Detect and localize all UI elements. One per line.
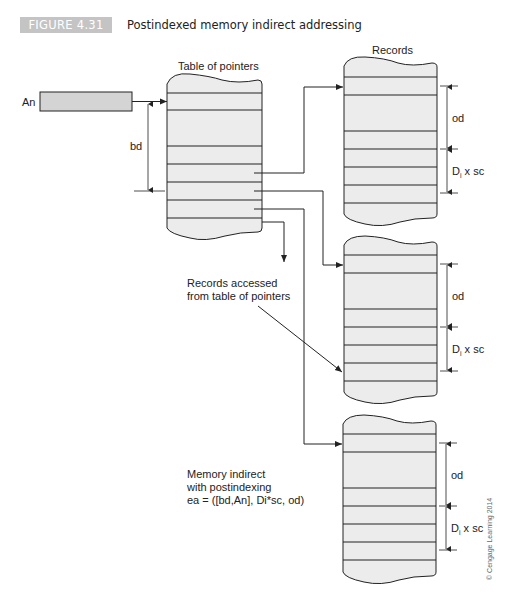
addressing-diagram: An bd Table of pointers Records Records … [0, 0, 518, 611]
records-label: Records [372, 44, 413, 56]
address-register-label: An [22, 96, 35, 108]
pointer-arrows [254, 87, 343, 444]
od-label-2: od [452, 290, 464, 302]
pointer-table-label: Table of pointers [178, 60, 259, 72]
note-line-3: ea = ([bd,An], Di*sc, od) [187, 494, 304, 506]
di-sc-label-2: Di x sc [452, 343, 485, 357]
records-accessed-label-2: from table of pointers [187, 290, 291, 302]
record-stack-3: od Di x sc [343, 415, 484, 584]
di-sc-label-3: Di x sc [451, 522, 484, 536]
note-line-2: with postindexing [186, 481, 271, 493]
base-displacement-label: bd [130, 140, 142, 152]
record-stack-2: od Di x sc [344, 236, 485, 404]
od-label-1: od [452, 112, 464, 124]
pointer-table [167, 74, 262, 240]
di-sc-label-1: Di x sc [452, 165, 485, 179]
record-stack-1: od Di x sc [344, 57, 485, 226]
note-line-1: Memory indirect [187, 468, 265, 480]
od-label-3: od [451, 469, 463, 481]
records-accessed-label-1: Records accessed [187, 277, 278, 289]
copyright-credit: © Cengage Learning 2014 [486, 498, 494, 580]
address-register-box [40, 92, 132, 111]
